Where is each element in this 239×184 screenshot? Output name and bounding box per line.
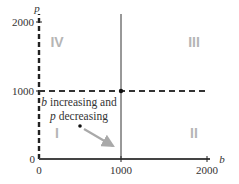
y-tick-label-1000: 1000 bbox=[12, 85, 35, 97]
x-tick-label-2000: 2000 bbox=[196, 164, 219, 176]
x-axis-label: b bbox=[219, 153, 225, 165]
annotation-line-2: p decreasing bbox=[49, 110, 108, 123]
annotation-text-1: increasing and bbox=[47, 96, 117, 109]
trajectory-start-dot bbox=[78, 124, 82, 128]
equilibrium-point bbox=[119, 89, 123, 93]
y-tick-label-0: 0 bbox=[30, 153, 36, 165]
y-tick-label-2000: 2000 bbox=[12, 16, 35, 28]
x-tick-label-1000: 1000 bbox=[110, 164, 133, 176]
quadrant-label-i: I bbox=[55, 125, 59, 141]
annotation-text-2: decreasing bbox=[56, 110, 108, 123]
x-tick-label-0: 0 bbox=[36, 164, 42, 176]
annotation-line-1: b increasing and bbox=[41, 96, 117, 109]
phase-diagram: 2000 1000 0 0 1000 2000 p b IV III I II … bbox=[0, 0, 239, 184]
quadrant-label-iii: III bbox=[188, 34, 200, 50]
quadrant-label-iv: IV bbox=[50, 34, 64, 50]
y-axis-label: p bbox=[33, 2, 40, 14]
trajectory-arrow-icon bbox=[84, 129, 113, 146]
quadrant-label-ii: II bbox=[190, 125, 198, 141]
